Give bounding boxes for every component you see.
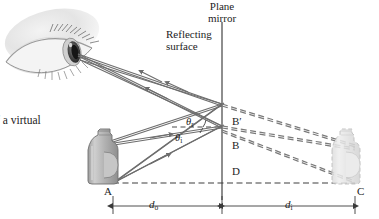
- angle-of-incidence-label: θi: [175, 132, 182, 143]
- reflecting-surface-line2: surface: [166, 40, 198, 52]
- reflecting-surface-label: Reflectingsurface: [166, 29, 232, 52]
- plane-mirror-title-line1: Plane: [210, 0, 234, 12]
- object-bottle: [88, 129, 118, 184]
- di-symbol: d: [285, 198, 291, 210]
- point-label-b: B: [232, 140, 239, 152]
- point-label-a: A: [104, 186, 112, 198]
- image-distance-label: di: [285, 199, 293, 211]
- theta-i-subscript: i: [180, 136, 182, 145]
- do-symbol: d: [149, 198, 155, 210]
- object-distance-label: do: [149, 199, 158, 211]
- reflecting-surface-line1: Reflecting: [166, 28, 212, 40]
- observer-eye: [0, 0, 105, 80]
- angle-of-reflection-label: θr: [186, 116, 194, 127]
- reflected-light-rays: [78, 54, 222, 128]
- di-subscript: i: [291, 203, 293, 212]
- plane-mirror-title-line2: mirror: [208, 12, 236, 24]
- virtual-image-bottle: [332, 129, 360, 184]
- do-subscript: o: [155, 203, 159, 212]
- point-label-b-prime: B′: [232, 116, 242, 128]
- caption-fragment: f a virtual: [0, 114, 41, 126]
- figure-canvas: Planemirror Reflectingsurface f a virtua…: [0, 0, 379, 219]
- reflected-ray-arrowheads: [140, 71, 188, 99]
- point-label-c: C: [357, 186, 364, 198]
- theta-r-subscript: r: [191, 120, 194, 129]
- plane-mirror-title: Planemirror: [188, 1, 256, 24]
- point-label-d: D: [232, 166, 240, 178]
